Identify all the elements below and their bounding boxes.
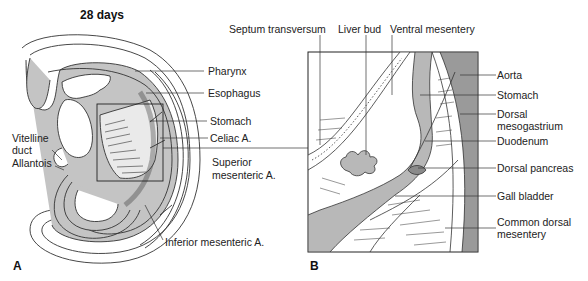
label-aorta: Aorta <box>497 69 522 81</box>
panel-a-title: 28 days <box>80 8 124 22</box>
label-duodenum: Duodenum <box>497 135 548 147</box>
label-pharynx: Pharynx <box>208 65 247 77</box>
label-dorsal-pancreas: Dorsal pancreas <box>497 162 573 174</box>
label-allantois: Allantois <box>12 157 52 169</box>
label-liver-bud: Liver bud <box>338 23 381 35</box>
label-superior-mesenteric-1: Superior <box>212 156 252 168</box>
label-gall-bladder: Gall bladder <box>497 190 554 202</box>
label-superior-mesenteric-2: mesenteric A. <box>212 169 276 181</box>
panel-b-enlarged-drawing <box>308 52 478 252</box>
label-stomach-a: Stomach <box>210 115 251 127</box>
panel-a-letter: A <box>13 259 22 273</box>
label-common-dorsal-mesentery-1: Common dorsal <box>497 216 571 228</box>
label-common-dorsal-mesentery-2: mesentery <box>497 228 546 240</box>
panel-b-letter: B <box>310 259 319 273</box>
label-dorsal-mesogastrium-2: mesogastrium <box>497 120 563 132</box>
label-celiac-artery: Celiac A. <box>210 132 251 144</box>
label-stomach-b: Stomach <box>497 89 538 101</box>
label-vitelline-duct-1: Vitelline <box>12 132 49 144</box>
label-septum-transversum: Septum transversum <box>229 23 326 35</box>
panel-a-embryo-drawing <box>22 35 200 263</box>
label-inferior-mesenteric: Inferior mesenteric A. <box>165 236 264 248</box>
label-ventral-mesentery: Ventral mesentery <box>390 23 475 35</box>
label-vitelline-duct-2: duct <box>12 144 32 156</box>
label-dorsal-mesogastrium-1: Dorsal <box>497 108 527 120</box>
label-esophagus: Esophagus <box>208 87 261 99</box>
